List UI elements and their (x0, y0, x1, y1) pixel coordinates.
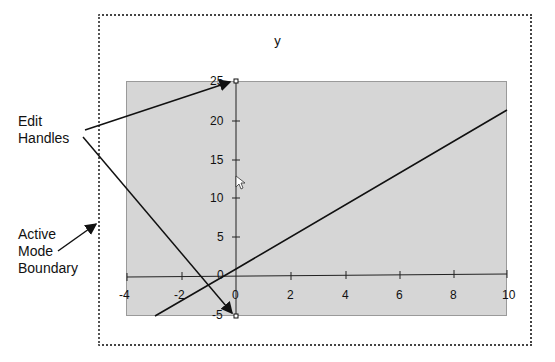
callout-text: Boundary (18, 260, 78, 277)
edit-handle-top (234, 79, 238, 83)
chart-overlay (0, 0, 555, 362)
x-axis (127, 274, 507, 277)
edit-handles-callout: Edit Handles (18, 113, 69, 147)
callout-text: Edit (18, 113, 69, 130)
edit-handle-bottom (234, 314, 238, 318)
arrow-to-bottom-handle (83, 137, 232, 313)
callout-text: Mode (18, 243, 78, 260)
callout-text: Active (18, 226, 78, 243)
active-mode-boundary-callout: Active Mode Boundary (18, 226, 78, 277)
arrow-to-top-handle (85, 82, 230, 130)
mouse-cursor-icon (236, 176, 245, 189)
callout-text: Handles (18, 130, 69, 147)
